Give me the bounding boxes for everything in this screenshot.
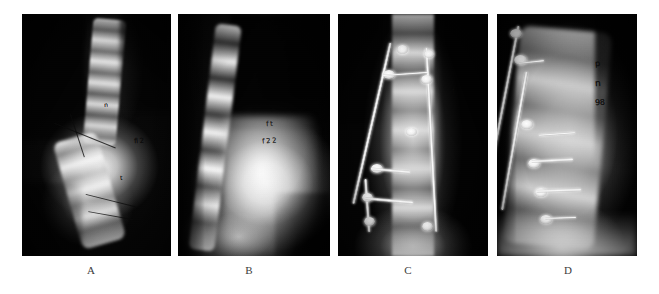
panel-caption-c: C	[398, 264, 418, 276]
handwritten-marking-c-2: t	[453, 118, 456, 126]
pedicle-screw-5	[406, 128, 417, 136]
handwritten-marking-d-2: n	[595, 79, 601, 87]
soft-tissue-shadow-left	[22, 14, 85, 140]
panel-caption-a: A	[81, 264, 101, 276]
handwritten-marking-b-2: f 2 2	[261, 137, 276, 146]
panel-b: f t f 2 2	[178, 14, 330, 256]
pedicle-screw-d1	[510, 29, 522, 38]
pedicle-screw-2	[424, 50, 434, 58]
handwritten-marking-a-4: t	[120, 174, 123, 182]
panel-d-radiograph-image: p n 98	[497, 14, 637, 256]
handwritten-marking-a-2: ff	[135, 115, 140, 123]
panel-a-radiograph-image: n ff fl 2 t	[22, 14, 171, 256]
spine-segment-upper	[82, 18, 126, 146]
soft-tissue-shadow-right-d	[595, 14, 637, 164]
panel-a: n ff fl 2 t	[22, 14, 171, 256]
handwritten-marking-d-1: p	[595, 60, 600, 68]
pelvis-highlight	[497, 212, 637, 256]
soft-tissue-shadow-right-c	[440, 14, 488, 256]
panel-d: p n 98	[497, 14, 637, 256]
panel-b-radiograph-image: f t f 2 2	[178, 14, 330, 256]
pedicle-screw-4	[421, 75, 432, 84]
panel-caption-b: B	[239, 264, 259, 276]
lung-field-shadow	[230, 14, 330, 130]
soft-tissue-shadow-right	[120, 14, 171, 111]
pedicle-screw-8	[364, 217, 375, 226]
handwritten-marking-d-3: 98	[595, 98, 605, 107]
soft-tissue-shadow-bottom-left	[22, 183, 82, 256]
handwritten-marking-a-1: n	[104, 101, 108, 109]
film-edge-shadow-bottom-right	[275, 193, 330, 256]
handwritten-marking-b-1: f t	[266, 120, 273, 128]
handwritten-marking-a-3: fl 2	[133, 137, 143, 146]
panel-c-radiograph-image: f t	[338, 14, 488, 256]
panel-caption-d: D	[558, 264, 578, 276]
film-edge-shadow-left	[178, 14, 205, 256]
radiograph-figure: n ff fl 2 t f t f 2 2	[0, 0, 659, 294]
panel-c: f t	[338, 14, 488, 256]
